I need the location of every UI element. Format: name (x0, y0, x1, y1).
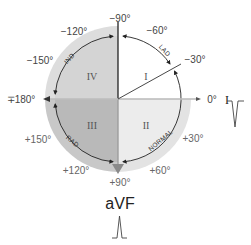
quadrant-label-i: I (144, 71, 147, 82)
angle-label-pm180: ∓180° (7, 94, 36, 105)
angle-label-minus150: −150° (27, 55, 54, 66)
quadrant-iv (55, 36, 118, 99)
lead-avf-waveform (112, 216, 127, 238)
angle-label-plus120: +120° (63, 165, 90, 176)
arrow-zero-icon (196, 97, 201, 101)
angle-label-plus30: +30° (183, 133, 204, 144)
quadrant-label-iii: III (87, 120, 97, 131)
lead-i-label: I (225, 93, 229, 107)
quadrant-i (118, 36, 181, 99)
angle-label-minus60: −60° (147, 25, 168, 36)
angle-label-plus60: +60° (150, 165, 171, 176)
lead-i-waveform (227, 101, 244, 127)
angle-label-minus30: −30° (185, 54, 206, 65)
angle-label-plus90: +90° (110, 177, 131, 188)
angle-label-plus150: +150° (25, 134, 52, 145)
quadrant-label-ii: II (143, 120, 150, 131)
quadrant-label-iv: IV (87, 71, 98, 82)
angle-label-zero: 0° (207, 94, 217, 105)
angle-label-minus120: −120° (61, 26, 88, 37)
angle-label-minus90: −90° (110, 13, 131, 24)
axis-diagram: I II III IV IND LAD NORMAL RAD −90° −60°… (0, 0, 251, 245)
lead-avf-label: aVF (105, 195, 135, 212)
